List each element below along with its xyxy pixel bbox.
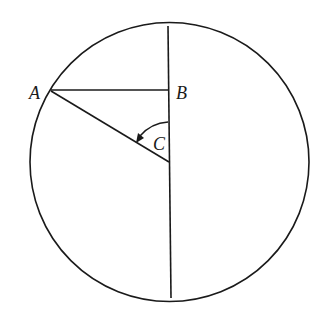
label-b: B: [176, 83, 187, 103]
arrow-head-icon: [136, 133, 144, 143]
label-a: A: [28, 83, 41, 103]
label-c: C: [153, 134, 166, 154]
geometry-diagram: A B C: [0, 0, 328, 322]
diagram-svg: A B C: [0, 0, 328, 322]
